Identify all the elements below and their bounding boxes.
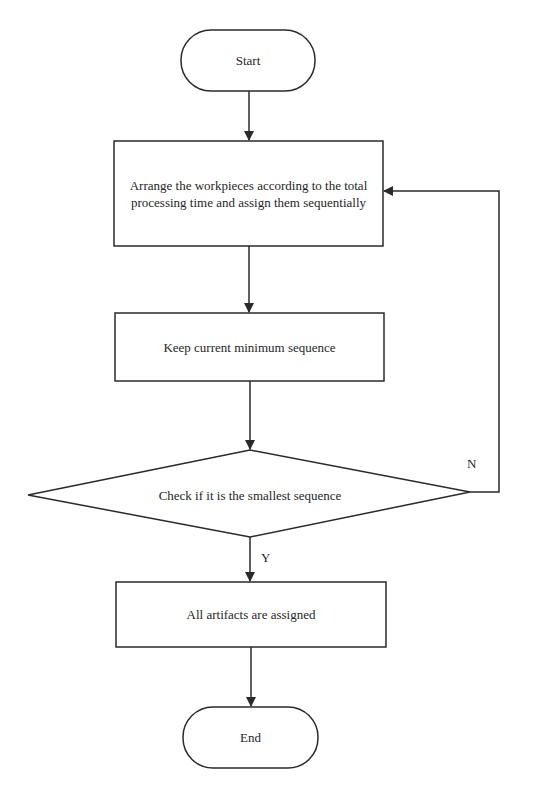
edge-label-yes: Y — [261, 550, 270, 566]
start-node-label: Start — [181, 30, 315, 91]
flowchart-canvas — [0, 0, 553, 791]
assigned-node-label: All artifacts are assigned — [116, 582, 386, 647]
arrow-check-no-loop — [384, 191, 499, 492]
arrange-node-label: Arrange the workpieces according to the … — [124, 141, 373, 246]
keep-node-label: Keep current minimum sequence — [115, 313, 384, 381]
end-node-label: End — [183, 707, 318, 768]
edge-label-no: N — [467, 456, 476, 472]
check-node-label: Check if it is the smallest sequence — [60, 480, 440, 510]
